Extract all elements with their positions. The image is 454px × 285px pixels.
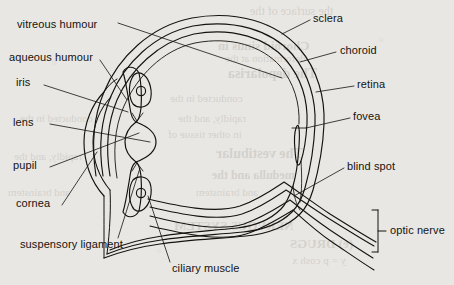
cornea-join-top xyxy=(104,79,117,92)
label-optic-nerve: optic nerve xyxy=(390,225,445,236)
lens-body xyxy=(125,122,156,162)
leader-fovea xyxy=(306,118,350,128)
leader-suspensory-ligament xyxy=(118,168,140,238)
label-fovea: fovea xyxy=(353,111,380,122)
leader-retina xyxy=(316,86,354,92)
label-lens: lens xyxy=(13,117,34,128)
label-blind-spot: blind spot xyxy=(347,161,395,172)
leader-sclera xyxy=(282,20,310,34)
leader-aqueous-humour xyxy=(100,60,127,100)
label-retina: retina xyxy=(357,79,385,90)
leader-ciliary-muscle xyxy=(148,196,170,262)
label-pupil: pupil xyxy=(13,160,37,171)
optic-nerve-fibre-4 xyxy=(150,210,374,270)
label-iris: iris xyxy=(16,77,30,88)
label-aqueous-humour: aqueous humour xyxy=(9,52,93,63)
leader-iris xyxy=(44,85,128,112)
label-sclera: sclera xyxy=(313,13,343,24)
label-cornea: cornea xyxy=(16,198,50,209)
label-suspensory-ligament: suspensory ligament xyxy=(20,239,123,250)
label-ciliary-muscle: ciliary muscle xyxy=(172,263,239,274)
label-choroid: choroid xyxy=(340,45,377,56)
leader-lens xyxy=(50,124,150,142)
label-vitreous-humour: vitreous humour xyxy=(17,19,97,30)
eye-anatomy-diagram: the surface of the Choroid sinus in defo… xyxy=(0,0,454,285)
inner-wall-line xyxy=(115,41,299,178)
